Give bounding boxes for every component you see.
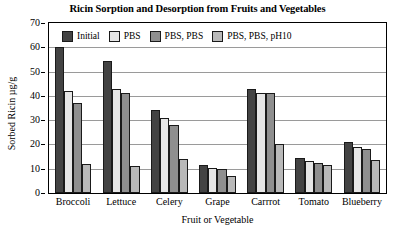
legend-label: Initial: [77, 31, 100, 42]
y-tick-mark: [41, 47, 45, 48]
y-tick-label: 60: [30, 42, 40, 52]
legend-swatch: [150, 31, 161, 42]
bar: [121, 93, 130, 193]
bar: [82, 164, 91, 193]
bar: [295, 158, 304, 193]
x-tick-label: Lettuce: [106, 196, 136, 208]
y-tick-mark: [41, 193, 45, 194]
y-tick-label: 50: [30, 67, 40, 77]
bar: [362, 149, 371, 193]
legend-entry: Initial: [62, 31, 100, 42]
bar: [160, 118, 169, 193]
x-tick-label: Tomato: [299, 196, 329, 208]
bar: [275, 144, 284, 193]
y-tick-label: 30: [30, 115, 40, 125]
bar: [208, 168, 217, 194]
bar: [323, 165, 332, 193]
y-tick-mark: [41, 96, 45, 97]
y-tick-mark: [41, 120, 45, 121]
bar-group: [295, 23, 332, 193]
y-tick-mark: [41, 72, 45, 73]
y-tick-label: 10: [30, 164, 40, 174]
bar: [247, 89, 256, 193]
bar: [73, 103, 82, 193]
bar: [103, 61, 112, 193]
y-tick-mark: [41, 169, 45, 170]
y-axis-title: Sorbed Ricin µg/g: [6, 49, 17, 179]
legend-label: PBS, PBS: [165, 31, 204, 42]
bar: [305, 161, 314, 193]
legend-swatch: [62, 31, 73, 42]
bar: [55, 47, 64, 193]
legend-entry: PBS, PBS: [150, 31, 204, 42]
bar: [227, 176, 236, 193]
x-tick-label: Broccoli: [56, 196, 90, 208]
legend-label: PBS, PBS, pH10: [227, 31, 291, 42]
y-tick-mark: [41, 144, 45, 145]
bar-group: [344, 23, 381, 193]
bar-group: [199, 23, 236, 193]
bar: [266, 93, 275, 193]
y-tick-mark: [41, 23, 45, 24]
bar: [256, 93, 265, 193]
x-tick-label: Celery: [156, 196, 183, 208]
x-axis: BroccoliLettuceCeleryGrapeCarrrotTomatoB…: [48, 196, 387, 210]
bar: [371, 160, 380, 193]
bars-layer: [49, 23, 386, 193]
bar-group: [55, 23, 92, 193]
x-tick-label: Carrrot: [251, 196, 280, 208]
bar-group: [151, 23, 188, 193]
x-axis-title: Fruit or Vegetable: [48, 214, 387, 225]
chart-legend: InitialPBSPBS, PBSPBS, PBS, pH10: [62, 31, 292, 42]
y-tick-label: 20: [30, 139, 40, 149]
bar: [130, 166, 139, 193]
bar: [199, 165, 208, 193]
legend-label: PBS: [124, 31, 141, 42]
y-tick-label: 40: [30, 91, 40, 101]
bar: [151, 110, 160, 193]
y-tick-label: 0: [35, 188, 40, 198]
bar-group: [247, 23, 284, 193]
bar-group: [103, 23, 140, 193]
bar: [353, 147, 362, 193]
legend-swatch: [109, 31, 120, 42]
bar: [64, 91, 73, 193]
chart-figure: Ricin Sorption and Desorption from Fruit…: [0, 0, 395, 241]
chart-title: Ricin Sorption and Desorption from Fruit…: [0, 3, 395, 14]
bar: [344, 142, 353, 193]
bar: [314, 163, 323, 193]
bar: [169, 125, 178, 193]
bar: [112, 89, 121, 193]
legend-entry: PBS: [109, 31, 141, 42]
bar: [217, 169, 226, 193]
y-tick-label: 70: [30, 18, 40, 28]
legend-entry: PBS, PBS, pH10: [212, 31, 291, 42]
plot-area: [48, 22, 387, 194]
bar: [179, 159, 188, 193]
x-tick-label: Grape: [205, 196, 229, 208]
legend-swatch: [212, 31, 223, 42]
x-tick-label: Blueberry: [342, 196, 382, 208]
